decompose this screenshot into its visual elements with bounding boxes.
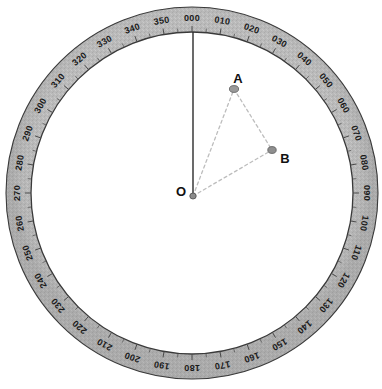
compass-degree-label-000: 000 [184, 13, 200, 23]
compass-canvas: 0000100200300400500600700800901001101201… [0, 0, 382, 389]
bearing-lines-group [193, 89, 272, 196]
point-label-A: A [233, 71, 243, 86]
bearing-line-OA [193, 89, 234, 196]
point-marker-A[interactable] [229, 86, 238, 93]
point-label-B: B [280, 151, 289, 166]
point-marker-B[interactable] [268, 147, 276, 154]
bearing-line-OB [193, 150, 272, 196]
compass-diagram: 0000100200300400500600700800901001101201… [0, 0, 382, 389]
bearing-line-AB [234, 89, 272, 150]
compass-degree-label-180: 180 [184, 363, 200, 373]
plotted-point-A[interactable]: A [229, 71, 243, 93]
point-marker-O[interactable] [190, 193, 196, 199]
compass-degree-label-270: 270 [12, 185, 22, 201]
compass-degree-label-090: 090 [362, 185, 372, 201]
plotted-point-B[interactable]: B [268, 147, 290, 166]
point-label-O: O [176, 184, 186, 199]
